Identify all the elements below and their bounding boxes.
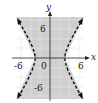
origin-label: 0 — [41, 62, 47, 71]
hyperbola-plot — [0, 0, 98, 103]
x-tick-neg6: -6 — [14, 62, 23, 71]
y-tick-neg6: -6 — [34, 84, 43, 93]
y-tick-6: 6 — [40, 25, 46, 34]
x-axis-arrow-icon — [85, 56, 90, 60]
x-tick-6: 6 — [78, 62, 84, 71]
x-axis-label: x — [91, 53, 96, 62]
y-axis-label: y — [46, 3, 51, 12]
